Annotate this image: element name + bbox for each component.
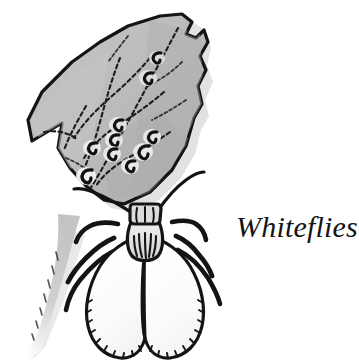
- leaf-petiole: [26, 214, 80, 360]
- whitefly-nymph: [83, 140, 101, 156]
- whitefly-nymph: [149, 51, 165, 65]
- whitefly-nymph: [133, 143, 153, 161]
- whitefly-thorax: [127, 222, 162, 261]
- whitefly-nymph: [143, 129, 161, 145]
- whitefly-nymph: [121, 158, 139, 174]
- whitefly-nymph: [139, 70, 157, 86]
- whitefly-nymph: [109, 117, 127, 133]
- figure-caption: Whiteflies: [236, 208, 359, 246]
- figure-artwork: [0, 0, 359, 364]
- whitefly-illustration: Whiteflies: [0, 0, 359, 364]
- whitefly-nymph: [105, 132, 123, 148]
- whitefly-nymph: [103, 146, 121, 162]
- whitefly-nymph: [76, 167, 96, 185]
- whitefly-head: [130, 204, 161, 224]
